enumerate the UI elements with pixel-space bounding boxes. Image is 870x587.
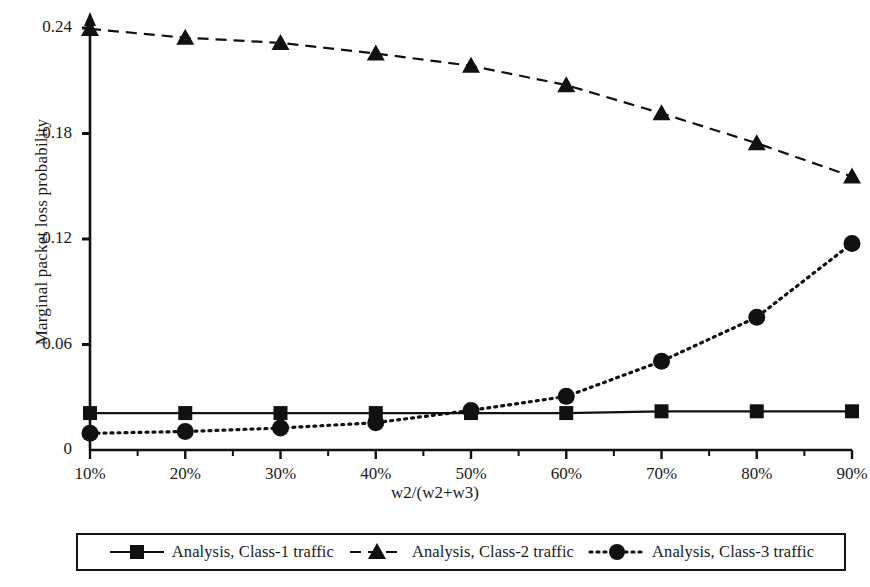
x-axis-tick-label: 10% xyxy=(45,464,135,484)
series-1-square-marker xyxy=(178,406,192,420)
x-axis-tick-label: 40% xyxy=(331,464,421,484)
series-3-circle-marker xyxy=(844,235,861,252)
legend-item-label: Analysis, Class-1 traffic xyxy=(172,542,334,562)
chart-figure: Marginal packet loss probability 00.060.… xyxy=(0,0,870,587)
series-3-circle-marker xyxy=(367,414,384,431)
triangle-marker-icon xyxy=(348,542,406,562)
series-3-circle-marker xyxy=(82,425,99,442)
y-axis-tick-label: 0.18 xyxy=(0,123,72,143)
series-1-square-marker xyxy=(274,406,288,420)
legend-item-label: Analysis, Class-3 traffic xyxy=(652,542,814,562)
chart-canvas xyxy=(0,0,870,510)
series-2-triangle-marker xyxy=(176,29,194,45)
x-axis-tick-label: 90% xyxy=(807,464,870,484)
series-3-circle-marker xyxy=(748,309,765,326)
y-axis-tick-label: 0.24 xyxy=(0,17,72,37)
x-axis-tick-label: 50% xyxy=(426,464,516,484)
series-1-square-marker xyxy=(559,406,573,420)
series-3-circle-marker xyxy=(653,353,670,370)
series-3-circle-marker xyxy=(177,423,194,440)
x-axis-tick-label: 80% xyxy=(712,464,802,484)
series-3-circle-marker xyxy=(558,388,575,405)
x-axis-title: w2/(w2+w3) xyxy=(0,483,870,503)
square-marker-icon xyxy=(108,542,166,562)
series-3-circle-marker xyxy=(272,420,289,437)
series-1-square-marker xyxy=(655,404,669,418)
series-1-square-marker xyxy=(83,406,97,420)
legend-item-1[interactable]: Analysis, Class-1 traffic xyxy=(101,542,341,562)
x-axis-tick-label: 20% xyxy=(140,464,230,484)
y-axis-tick-label: 0.12 xyxy=(0,228,72,248)
series-1-square-marker xyxy=(845,404,859,418)
series-line-2 xyxy=(90,29,852,177)
series-2-triangle-marker xyxy=(843,168,861,184)
y-axis-tick-label: 0 xyxy=(0,439,72,459)
plot-area: Marginal packet loss probability 00.060.… xyxy=(0,0,870,510)
legend-item-label: Analysis, Class-2 traffic xyxy=(412,542,574,562)
legend: Analysis, Class-1 trafficAnalysis, Class… xyxy=(76,533,846,571)
x-axis-tick-label: 60% xyxy=(521,464,611,484)
y-axis-tick-label: 0.06 xyxy=(0,334,72,354)
x-axis-tick-label: 70% xyxy=(617,464,707,484)
series-2-triangle-marker xyxy=(462,57,480,73)
series-1-square-marker xyxy=(750,404,764,418)
x-axis-tick-label: 30% xyxy=(236,464,326,484)
circle-marker-icon xyxy=(588,542,646,562)
legend-item-3[interactable]: Analysis, Class-3 traffic xyxy=(581,542,821,562)
legend-item-2[interactable]: Analysis, Class-2 traffic xyxy=(341,542,581,562)
series-2-triangle-marker xyxy=(653,104,671,120)
series-3-circle-marker xyxy=(463,402,480,419)
